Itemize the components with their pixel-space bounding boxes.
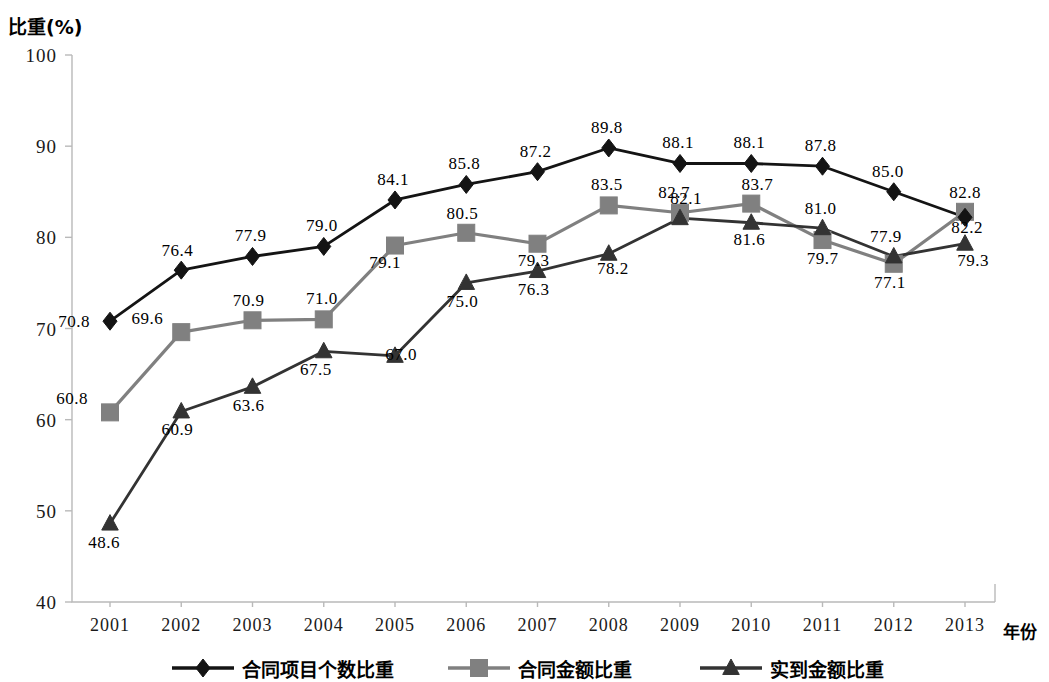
series-1-labels: 70.876.477.979.084.185.887.289.888.188.1… (58, 118, 983, 331)
marker-square (387, 237, 404, 254)
data-label: 79.7 (807, 249, 839, 268)
data-label: 48.6 (88, 533, 120, 552)
data-label: 79.1 (369, 253, 401, 272)
data-label: 88.1 (662, 133, 694, 152)
data-label: 83.7 (741, 175, 773, 194)
marker-diamond (815, 157, 829, 175)
x-axis-ticks: 2001200220032004200520062007200820092010… (90, 602, 985, 635)
legend-item-3[interactable]: 实到金额比重 (700, 659, 884, 681)
data-label: 87.8 (805, 136, 837, 155)
data-label: 77.1 (874, 273, 906, 292)
legend-label: 合同金额比重 (518, 659, 632, 681)
data-label: 71.0 (306, 289, 338, 308)
x-tick-label: 2013 (945, 615, 985, 635)
data-label: 67.5 (300, 360, 332, 379)
marker-triangle (244, 378, 261, 393)
data-label: 69.6 (131, 309, 163, 328)
marker-triangle (315, 342, 332, 357)
data-label: 63.6 (233, 396, 265, 415)
legend-label: 合同项目个数比重 (242, 659, 394, 681)
data-label: 80.5 (446, 204, 478, 223)
marker-square (743, 195, 760, 212)
marker-diamond (887, 183, 901, 201)
marker-square (600, 197, 617, 214)
data-label: 82.2 (951, 218, 983, 237)
data-label: 85.0 (872, 162, 904, 181)
legend-item-2[interactable]: 合同金额比重 (448, 659, 632, 681)
marker-diamond (317, 237, 331, 255)
x-tick-label: 2010 (731, 615, 771, 635)
legend-item-1[interactable]: 合同项目个数比重 (172, 659, 394, 681)
data-label: 79.3 (518, 251, 550, 270)
x-tick-label: 2004 (304, 615, 344, 635)
marker-square (471, 660, 488, 677)
data-label: 76.3 (518, 280, 550, 299)
marker-diamond (196, 659, 210, 677)
x-tick-label: 2002 (161, 615, 201, 635)
x-tick-label: 2012 (874, 615, 914, 635)
data-label: 78.2 (597, 259, 629, 278)
data-label: 89.8 (591, 118, 623, 137)
marker-square (244, 312, 261, 329)
marker-square (458, 224, 475, 241)
data-label: 84.1 (377, 170, 409, 189)
marker-diamond (602, 139, 616, 157)
marker-diamond (245, 247, 259, 265)
chart-container: 比重(%) 年份 4050607080901002001200220032004… (0, 0, 1049, 682)
x-tick-label: 2003 (233, 615, 273, 635)
data-label: 77.9 (870, 227, 902, 246)
data-label: 81.6 (733, 230, 765, 249)
y-tick-label: 70 (36, 319, 57, 340)
marker-square (315, 311, 332, 328)
marker-diamond (673, 154, 687, 172)
marker-diamond (530, 163, 544, 181)
y-tick-label: 80 (36, 227, 57, 248)
marker-diamond (174, 261, 188, 279)
data-label: 83.5 (591, 175, 623, 194)
y-tick-label: 60 (36, 410, 57, 431)
data-label: 79.3 (957, 251, 989, 270)
data-label: 60.8 (56, 389, 88, 408)
marker-square (529, 235, 546, 252)
data-label: 70.9 (233, 291, 265, 310)
data-label: 79.0 (306, 216, 338, 235)
y-tick-label: 40 (36, 592, 57, 613)
data-label: 87.2 (520, 142, 552, 161)
data-label: 67.0 (385, 345, 417, 364)
data-label: 77.9 (235, 226, 267, 245)
data-label: 88.1 (733, 133, 765, 152)
data-label: 75.0 (446, 292, 478, 311)
data-label: 82.1 (670, 189, 702, 208)
legend-label: 实到金额比重 (770, 659, 884, 681)
marker-square (102, 404, 119, 421)
y-tick-label: 100 (26, 45, 58, 66)
data-label: 60.9 (161, 420, 193, 439)
marker-square (173, 324, 190, 341)
x-tick-label: 2007 (518, 615, 558, 635)
data-label: 85.8 (448, 154, 480, 173)
x-tick-label: 2011 (803, 615, 842, 635)
x-tick-label: 2008 (589, 615, 629, 635)
marker-diamond (103, 312, 117, 330)
marker-diamond (459, 175, 473, 193)
y-tick-label: 50 (36, 501, 57, 522)
marker-diamond (388, 191, 402, 209)
x-tick-label: 2009 (660, 615, 700, 635)
data-label: 82.8 (949, 183, 981, 202)
data-label: 81.0 (805, 199, 837, 218)
line-chart-plot: 4050607080901002001200220032004200520062… (0, 0, 1049, 682)
x-tick-label: 2001 (90, 615, 130, 635)
x-tick-label: 2006 (446, 615, 486, 635)
x-tick-label: 2005 (375, 615, 415, 635)
data-label: 76.4 (161, 241, 193, 260)
marker-diamond (744, 154, 758, 172)
y-tick-label: 90 (36, 136, 57, 157)
data-label: 70.8 (58, 312, 90, 331)
chart-legend: 合同项目个数比重合同金额比重实到金额比重 (172, 659, 884, 681)
